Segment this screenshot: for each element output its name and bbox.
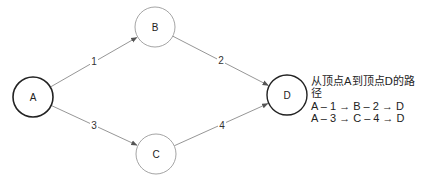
edge-weight-label: 2: [218, 55, 224, 66]
node-label: B: [152, 22, 159, 33]
legend-path-1: A – 1 → B – 2 → D: [311, 100, 425, 112]
node-d: D: [267, 75, 307, 115]
node-label: D: [283, 90, 290, 101]
legend-title: 从顶点A到顶点D的路径: [311, 76, 425, 100]
legend-path-2: A – 3 → C – 4 → D: [311, 112, 425, 124]
node-b: B: [135, 7, 175, 47]
node-label: C: [152, 149, 159, 160]
path-legend: 从顶点A到顶点D的路径 A – 1 → B – 2 → D A – 3 → C …: [311, 76, 425, 124]
node-c: C: [136, 134, 176, 174]
node-a: A: [13, 77, 53, 117]
edge-weight-label: 3: [91, 120, 97, 131]
edge-weight-label: 4: [219, 120, 225, 131]
node-label: A: [30, 92, 37, 103]
edge-weight-label: 1: [91, 56, 97, 67]
